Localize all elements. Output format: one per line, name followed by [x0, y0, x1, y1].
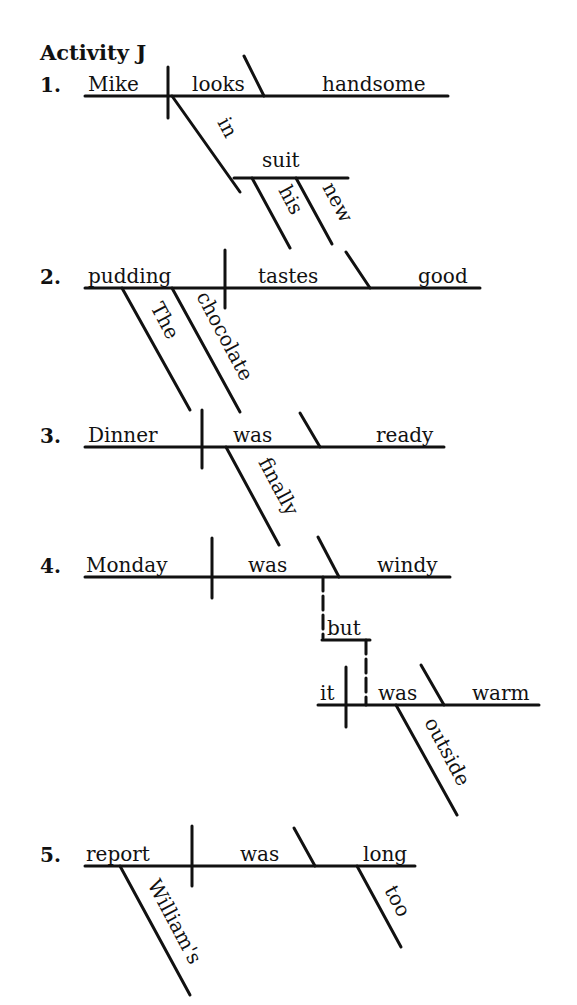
word-subject: Dinner	[88, 423, 158, 447]
diagrams-group: 1.Mikelookshandsomeinsuithisnew2.pudding…	[40, 56, 539, 995]
slash-line	[294, 828, 315, 866]
word-verb: was	[233, 423, 272, 447]
word-predicate-adjective: handsome	[322, 72, 426, 96]
sentence-diagram-worksheet: Activity J 1.Mikelookshandsomeinsuithisn…	[0, 0, 577, 1005]
word-preposition: in	[213, 113, 243, 141]
word-subject: Monday	[86, 553, 168, 577]
slash-line	[318, 537, 339, 577]
slash-line	[421, 665, 444, 705]
word-conjunction: but	[327, 616, 361, 640]
word-verb: was	[240, 842, 279, 866]
word-verb: looks	[192, 72, 245, 96]
diagram-number: 4.	[40, 554, 61, 578]
word-modifier: new	[318, 178, 359, 226]
word-predicate-adjective: windy	[377, 553, 438, 577]
word-modifier: his	[274, 181, 309, 218]
word-predicate-adjective: long	[363, 842, 407, 866]
diagram-4: 4.Mondaywaswindybutitwaswarmoutside	[40, 537, 539, 815]
word-object-of-preposition: suit	[262, 148, 300, 172]
word-verb: was	[248, 553, 287, 577]
word-predicate-adjective: good	[418, 264, 468, 288]
activity-title: Activity J	[39, 40, 146, 65]
word-subject: it	[320, 681, 334, 705]
diagram-number: 3.	[40, 424, 61, 448]
word-adverb: outside	[420, 713, 476, 790]
diagram-number: 1.	[40, 73, 61, 97]
word-subject: report	[86, 842, 150, 866]
diagram-number: 2.	[40, 265, 61, 289]
diagram-2: 2.puddingtastesgoodThechocolate	[40, 250, 480, 412]
slant-line	[172, 96, 240, 192]
word-verb: tastes	[258, 264, 318, 288]
diagram-5: 5.reportwaslongWilliam'stoo	[40, 826, 416, 995]
word-subject: pudding	[88, 264, 172, 288]
word-subject: Mike	[88, 72, 139, 96]
word-verb: was	[378, 681, 417, 705]
diagram-3: 3.Dinnerwasreadyfinally	[40, 410, 444, 545]
slash-line	[300, 413, 320, 447]
word-predicate-adjective: warm	[472, 681, 530, 705]
diagram-number: 5.	[40, 843, 61, 867]
slash-line	[346, 252, 370, 288]
diagram-1: 1.Mikelookshandsomeinsuithisnew	[40, 56, 448, 248]
word-modifier: The	[146, 298, 185, 343]
slash-line	[244, 56, 264, 96]
word-predicate-adjective: ready	[376, 423, 434, 447]
word-possessive-modifier: William's	[143, 875, 208, 968]
